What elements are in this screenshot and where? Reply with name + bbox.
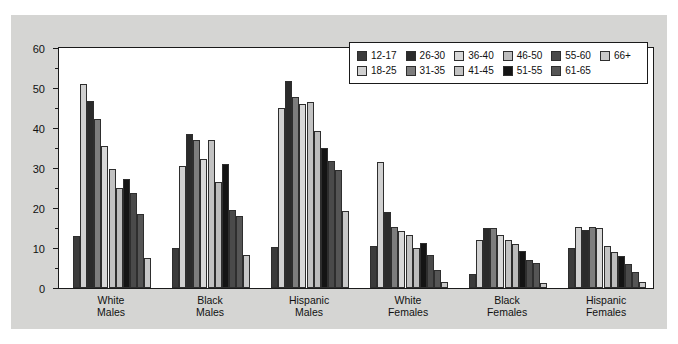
legend-item[interactable]: 12-17 xyxy=(357,50,397,61)
bar xyxy=(420,243,427,288)
legend-label: 61-65 xyxy=(565,65,591,76)
legend-label: 66+ xyxy=(614,50,631,61)
bar xyxy=(625,264,632,288)
x-axis-group-label-line: Males xyxy=(289,306,329,318)
y-axis-tick-major: 60 xyxy=(53,48,59,49)
bar xyxy=(575,227,582,288)
legend-swatch-icon xyxy=(454,51,464,61)
x-axis-group-label-line: Black xyxy=(196,294,224,306)
bar xyxy=(123,179,130,288)
y-axis-tick-major: 0 xyxy=(53,288,59,289)
bar xyxy=(299,104,306,288)
bar xyxy=(540,283,547,288)
legend-item[interactable]: 31-35 xyxy=(406,65,446,76)
bar xyxy=(130,193,137,288)
y-axis-tick-major: 30 xyxy=(53,168,59,169)
bar xyxy=(377,162,384,288)
legend-swatch-icon xyxy=(551,51,561,61)
bar xyxy=(490,228,497,288)
y-axis-tick-minor xyxy=(55,228,59,229)
bar xyxy=(618,256,625,288)
x-axis-group-label-line: Hispanic xyxy=(289,294,329,306)
bar xyxy=(526,260,533,288)
y-axis-tick-minor xyxy=(55,148,59,149)
legend-row: 12-1726-3036-4046-5055-6066+ xyxy=(357,48,640,63)
bar xyxy=(307,102,314,288)
x-axis-group-label-line: Females xyxy=(487,306,527,318)
bar xyxy=(271,247,278,288)
y-axis-tick-label: 20 xyxy=(33,203,45,215)
legend-label: 51-55 xyxy=(517,65,543,76)
bar xyxy=(172,248,179,288)
legend-swatch-icon xyxy=(551,66,561,76)
bar xyxy=(314,131,321,288)
bar xyxy=(406,235,413,288)
x-axis-group-label: BlackMales xyxy=(196,294,224,318)
x-axis-group-label: WhiteMales xyxy=(97,294,125,318)
y-axis-tick-label: 50 xyxy=(33,83,45,95)
bar xyxy=(236,216,243,288)
bar xyxy=(519,251,526,288)
x-axis-group-label-line: Females xyxy=(586,306,626,318)
x-axis-group-label-line: Hispanic xyxy=(586,294,626,306)
legend-label: 46-50 xyxy=(517,50,543,61)
legend-swatch-icon xyxy=(406,66,416,76)
bar xyxy=(285,81,292,288)
legend-swatch-icon xyxy=(406,51,416,61)
bar xyxy=(335,170,342,288)
legend-swatch-icon xyxy=(503,51,513,61)
bar xyxy=(208,140,215,288)
legend-label: 12-17 xyxy=(371,50,397,61)
bar xyxy=(611,252,618,288)
legend-item[interactable]: 18-25 xyxy=(357,65,397,76)
legend-item[interactable]: 46-50 xyxy=(503,50,543,61)
x-axis-group-label-line: Females xyxy=(388,306,428,318)
bar xyxy=(278,108,285,288)
x-axis-group-label: WhiteFemales xyxy=(388,294,428,318)
y-axis-tick-label: 10 xyxy=(33,243,45,255)
bar xyxy=(186,134,193,288)
bar xyxy=(116,188,123,288)
bar xyxy=(398,231,405,288)
y-axis-tick-label: 30 xyxy=(33,163,45,175)
y-axis-tick-label: 0 xyxy=(39,283,45,295)
bar xyxy=(497,235,504,288)
bar xyxy=(328,161,335,288)
bar xyxy=(94,119,101,288)
y-axis-tick-minor xyxy=(55,268,59,269)
bar xyxy=(215,182,222,288)
bar xyxy=(292,97,299,288)
bar xyxy=(533,263,540,288)
bar xyxy=(179,166,186,288)
legend-label: 18-25 xyxy=(371,65,397,76)
bar xyxy=(596,228,603,288)
y-axis-tick-major: 20 xyxy=(53,208,59,209)
legend-item[interactable]: 66+ xyxy=(600,50,631,61)
bar xyxy=(469,274,476,288)
y-axis-tick-major: 50 xyxy=(53,88,59,89)
bar xyxy=(229,210,236,288)
bar xyxy=(391,227,398,288)
legend-row: 18-2531-3541-4551-5561-65 xyxy=(357,63,640,78)
legend-item[interactable]: 26-30 xyxy=(406,50,446,61)
legend-item[interactable]: 51-55 xyxy=(503,65,543,76)
y-axis-tick-minor xyxy=(55,188,59,189)
y-axis-tick-minor xyxy=(55,108,59,109)
legend-swatch-icon xyxy=(503,66,513,76)
bar xyxy=(384,212,391,288)
chart-legend: 12-1726-3036-4046-5055-6066+18-2531-3541… xyxy=(349,42,648,84)
bar xyxy=(321,148,328,288)
bar xyxy=(441,282,448,288)
legend-item[interactable]: 36-40 xyxy=(454,50,494,61)
bar xyxy=(632,272,639,288)
bar xyxy=(137,214,144,288)
x-axis-group-label: HispanicFemales xyxy=(586,294,626,318)
legend-label: 26-30 xyxy=(420,50,446,61)
bar xyxy=(639,282,646,288)
legend-item[interactable]: 41-45 xyxy=(454,65,494,76)
figure-panel: Cumulative probability 0102030405060 12-… xyxy=(11,15,667,329)
legend-item[interactable]: 61-65 xyxy=(551,65,591,76)
bar xyxy=(144,258,151,288)
legend-item[interactable]: 55-60 xyxy=(551,50,591,61)
x-axis-group-label-line: Black xyxy=(487,294,527,306)
